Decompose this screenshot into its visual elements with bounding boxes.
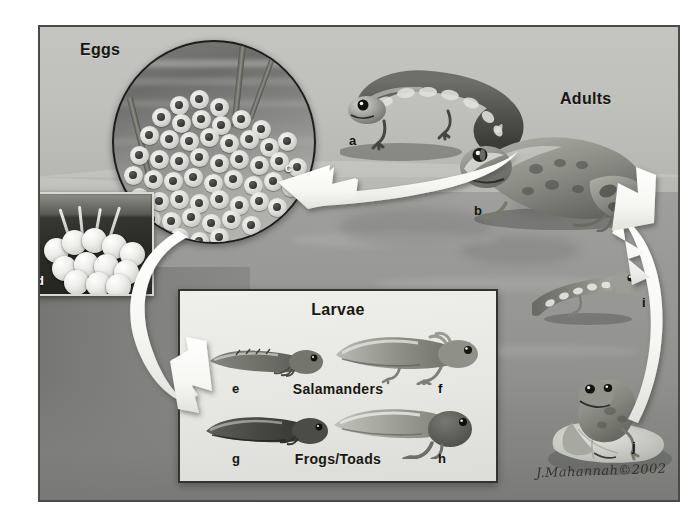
larvae-panel-title: Larvae: [180, 301, 496, 319]
frog-egg-cluster-inset: d: [38, 192, 154, 296]
eggs-label: Eggs: [80, 41, 120, 59]
frogs-toads-row-label: Frogs/Toads: [180, 451, 496, 467]
key-label-b: b: [474, 203, 482, 218]
salamander-larva-early-illustration: [206, 341, 330, 377]
tadpole-early-illustration: [204, 409, 334, 447]
amphibian-life-cycle-figure: c d Larvae: [38, 25, 680, 502]
larvae-panel: Larvae e: [178, 289, 498, 483]
key-label-j: j: [632, 439, 636, 454]
salamanders-row-label: Salamanders: [180, 381, 496, 397]
key-label-a: a: [349, 133, 356, 148]
key-label-d: d: [38, 273, 44, 288]
juvenile-salamander-illustration: [532, 265, 648, 327]
adults-label: Adults: [560, 90, 612, 108]
salamander-larva-late-illustration: [334, 329, 484, 385]
key-label-c: c: [285, 160, 292, 175]
water-blotch: [460, 235, 580, 265]
key-label-i: i: [642, 295, 646, 310]
